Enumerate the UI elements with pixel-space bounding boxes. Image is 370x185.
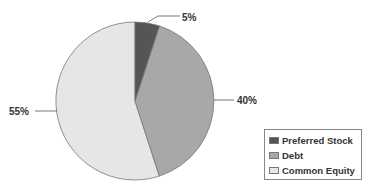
data-label-preferred: 5% [182,12,197,23]
leader-line-preferred [148,16,180,22]
legend: Preferred Stock Debt Common Equity [264,129,362,180]
legend-item-common-equity: Common Equity [269,163,357,178]
data-label-equity: 55% [9,106,29,117]
legend-label: Preferred Stock [282,135,353,146]
legend-label: Common Equity [282,165,355,176]
legend-item-debt: Debt [269,148,357,163]
legend-swatch [269,152,279,159]
legend-item-preferred-stock: Preferred Stock [269,133,357,148]
legend-swatch [269,137,279,144]
legend-swatch [269,167,279,174]
legend-label: Debt [282,150,303,161]
data-label-debt: 40% [237,95,257,106]
